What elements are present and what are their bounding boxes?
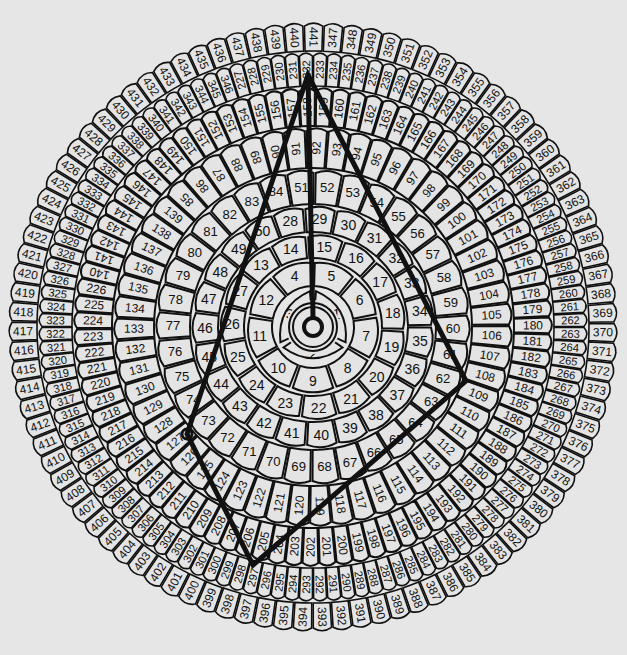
cell: 223	[74, 329, 112, 345]
cell-number: 83	[245, 194, 260, 209]
cell-number: 62	[436, 371, 451, 386]
cell-number: 261	[560, 300, 580, 313]
cell-number: 224	[83, 313, 104, 328]
cell-number: 394	[296, 606, 311, 627]
cell-number: 201	[319, 536, 334, 557]
cell-number: 230	[272, 62, 286, 82]
cell-number: 56	[410, 226, 425, 241]
cell: 261	[553, 299, 586, 314]
cell: 394	[293, 602, 311, 630]
cell-number: 68	[317, 459, 332, 474]
cell-number: 17	[372, 274, 388, 290]
cell-number: 324	[47, 300, 67, 313]
cell-number: 76	[168, 344, 183, 359]
cell: 201	[319, 527, 336, 565]
cell-number: 31	[367, 230, 383, 246]
cell-number: 40	[313, 427, 329, 443]
cell-number: 38	[368, 407, 384, 423]
cell: 439	[265, 26, 286, 55]
cell: 9	[293, 366, 333, 392]
cell-number: 57	[425, 247, 440, 262]
cell-number: 23	[278, 395, 294, 411]
cell-number: 42	[256, 415, 272, 431]
cell: 419	[11, 283, 40, 303]
cell-number: 72	[220, 430, 235, 445]
cell-number: 22	[311, 400, 327, 416]
cell-number: 120	[292, 495, 308, 516]
cell-number: 181	[522, 334, 543, 349]
cell: 106	[471, 326, 511, 347]
cell-number: 418	[13, 305, 34, 320]
cell-number: 21	[343, 391, 359, 407]
cell-number: 29	[312, 211, 328, 227]
cell-number: 79	[176, 268, 191, 283]
cell-number: 225	[83, 297, 105, 313]
cell: 347	[323, 24, 342, 53]
cell-number: 5	[328, 268, 336, 284]
cell-number: 133	[124, 322, 144, 336]
cell: 372	[584, 360, 613, 381]
cell-number: 43	[232, 398, 248, 414]
cell-number: 295	[272, 572, 286, 592]
cell-number: 395	[276, 605, 292, 627]
cell: 321	[40, 340, 73, 355]
cell-number: 234	[326, 61, 339, 81]
cell: 179	[513, 300, 551, 317]
cell-number: 294	[286, 574, 299, 594]
cell: 323	[39, 313, 72, 326]
cell-number: 12	[258, 292, 274, 308]
cell-number: 392	[333, 605, 349, 627]
cell-number: 105	[481, 307, 502, 322]
cell-number: 262	[561, 314, 580, 326]
cell: 133	[114, 319, 154, 340]
cell-number: 36	[405, 361, 421, 377]
cell: 348	[342, 26, 363, 55]
cell-number: 73	[201, 413, 216, 428]
cell: 68	[313, 448, 339, 483]
cell: 292	[313, 568, 326, 601]
cell-number: 25	[230, 349, 246, 365]
cell-number: 222	[84, 344, 106, 360]
cell-number: 10	[271, 360, 287, 376]
cell-number: 200	[334, 534, 351, 556]
cell-number: 182	[520, 349, 542, 366]
cell-number: 6	[356, 292, 364, 308]
cell-number: 24	[249, 377, 265, 393]
cell: 105	[471, 304, 512, 325]
cell-number: 368	[590, 286, 612, 302]
cell-number: 291	[326, 574, 339, 594]
cell-number: 39	[342, 420, 358, 436]
cell: 46	[192, 313, 218, 343]
cell-number: 37	[390, 387, 406, 403]
cell-number: 439	[267, 29, 284, 51]
cell: 370	[589, 323, 617, 341]
cell-number: 14	[283, 241, 299, 257]
cell-number: 48	[213, 264, 229, 280]
cell-number: 78	[168, 292, 183, 307]
cell: 202	[303, 528, 319, 566]
cell-number: 264	[560, 340, 580, 353]
cell: 395	[274, 601, 294, 630]
cell-number: 44	[213, 376, 229, 392]
cell: 415	[12, 359, 41, 380]
cell: 393	[313, 602, 331, 630]
cell-number: 179	[522, 302, 543, 318]
cell-number: 160	[331, 97, 347, 119]
cell-number: 371	[591, 344, 612, 360]
cell-number: 290	[339, 572, 353, 592]
cell-number: 8	[344, 360, 352, 376]
cell-number: 80	[187, 245, 202, 260]
cell-number: 202	[304, 537, 318, 557]
cell-number: 348	[344, 28, 361, 50]
cell-number: 263	[561, 327, 580, 339]
cell-number: 46	[197, 320, 213, 336]
cell: 371	[587, 342, 616, 362]
cell-number: 369	[592, 306, 613, 321]
cell-number: 321	[47, 340, 67, 353]
cell-number: 4	[291, 268, 299, 284]
cell-number: 370	[593, 325, 614, 339]
cell-number: 7	[362, 328, 370, 344]
cell-number: 417	[13, 324, 34, 338]
cell-number: 49	[231, 241, 247, 257]
cell: 263	[554, 327, 587, 340]
